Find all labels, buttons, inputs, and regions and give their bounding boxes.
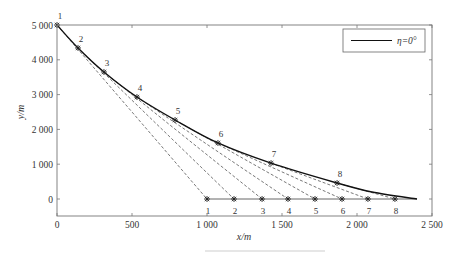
trajectory-point-label: 1 bbox=[58, 11, 63, 21]
x-axis-label: x/m bbox=[236, 231, 251, 242]
x-tick-label: 0 bbox=[55, 220, 60, 230]
trajectory-marker bbox=[101, 69, 107, 75]
legend-label: η=0° bbox=[397, 36, 417, 46]
y-tick-label: 5 000 bbox=[32, 21, 54, 31]
y-tick-label: 4 000 bbox=[32, 55, 54, 65]
ground-point-label: 2 bbox=[233, 206, 238, 216]
y-tick-label: 3 000 bbox=[32, 90, 54, 100]
trajectory-point-label: 3 bbox=[105, 58, 110, 68]
trajectory-marker bbox=[215, 140, 221, 146]
ground-marker bbox=[285, 196, 291, 202]
trajectory-point-label: 4 bbox=[138, 83, 143, 93]
trajectory-marker bbox=[268, 160, 274, 166]
x-tick-label: 1 500 bbox=[271, 220, 293, 230]
x-tick-label: 2 000 bbox=[346, 220, 368, 230]
y-tick-label: 0 bbox=[48, 195, 53, 205]
y-tick-label: 1 000 bbox=[32, 160, 54, 170]
dashed-line bbox=[137, 97, 288, 199]
y-axis-label: y/m bbox=[15, 105, 26, 120]
x-tick-label: 2 500 bbox=[421, 220, 443, 230]
x-tick-label: 500 bbox=[125, 220, 140, 230]
trajectory-point-label: 2 bbox=[79, 34, 84, 44]
plot-frame bbox=[57, 25, 432, 216]
ground-marker bbox=[259, 196, 265, 202]
ground-marker bbox=[392, 196, 398, 202]
ground-marker bbox=[312, 196, 318, 202]
ground-marker bbox=[339, 196, 345, 202]
ground-point-label: 8 bbox=[394, 206, 399, 216]
ground-marker bbox=[231, 196, 237, 202]
trajectory-marker bbox=[172, 117, 178, 123]
axes-frame bbox=[57, 25, 432, 216]
ground-point-label: 7 bbox=[367, 206, 372, 216]
ground-point-label: 4 bbox=[287, 206, 292, 216]
x-tick-label: 1 000 bbox=[196, 220, 218, 230]
trajectory-marker bbox=[334, 180, 340, 186]
trajectory-point-label: 5 bbox=[176, 106, 181, 116]
trajectory-marker bbox=[134, 94, 140, 100]
trajectory-marker bbox=[75, 45, 81, 51]
ground-marker bbox=[365, 196, 371, 202]
ground-point-label: 5 bbox=[314, 206, 319, 216]
trajectory-chart: 1234567812345678 05001 0001 5002 0002 50… bbox=[0, 0, 458, 257]
figure-caption bbox=[205, 250, 325, 252]
dashed-line bbox=[57, 25, 207, 199]
trajectory-point-label: 7 bbox=[272, 149, 277, 159]
trajectory-point-label: 6 bbox=[219, 129, 224, 139]
ground-point-label: 1 bbox=[206, 206, 211, 216]
trajectory-point-label: 8 bbox=[338, 169, 343, 179]
ground-marker bbox=[204, 196, 210, 202]
y-tick-label: 2 000 bbox=[32, 125, 54, 135]
legend: η=0° bbox=[343, 29, 425, 52]
ground-point-label: 6 bbox=[341, 206, 346, 216]
ground-point-label: 3 bbox=[261, 206, 266, 216]
